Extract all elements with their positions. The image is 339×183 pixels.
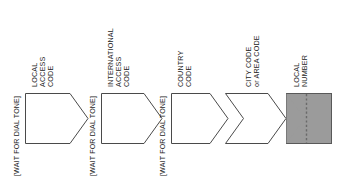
diagram-canvas: [WAIT FOR DIAL TONE] [WAIT FOR DIAL TONE… [0, 0, 339, 183]
label-line: NUMBER [301, 55, 309, 87]
gate-label-3: [WAIT FOR DIAL TONE] [159, 96, 167, 176]
shape-step-international-access-code [102, 94, 163, 144]
label-line: CODE [47, 57, 55, 87]
diagram-shapes [0, 0, 339, 183]
flow-shapes-svg [0, 0, 339, 183]
label-step-country-code: COUNTRY CODE [177, 51, 193, 87]
gate-label-1: [WAIT FOR DIAL TONE] [13, 96, 21, 176]
gate-label-2: [WAIT FOR DIAL TONE] [89, 96, 97, 176]
label-step-city-area-code: CITY CODE or AREA CODE [245, 35, 261, 87]
label-line: CODE [123, 28, 131, 87]
shape-step-country-code [172, 94, 229, 144]
label-line: or AREA CODE [253, 35, 261, 87]
shape-step-local-access-code [26, 94, 89, 144]
label-step-local-number: LOCAL NUMBER [293, 55, 309, 87]
label-line: CODE [185, 51, 193, 87]
label-step-local-access-code: LOCAL ACCESS CODE [31, 57, 55, 87]
label-step-international-access-code: INTERNATIONAL ACCESS CODE [107, 28, 131, 87]
shape-step-city-area-code [226, 94, 287, 144]
